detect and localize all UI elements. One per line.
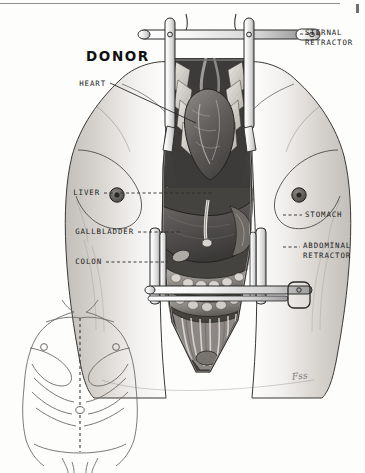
page-title: DONOR	[86, 48, 150, 64]
donor-anatomy-drawing	[0, 0, 365, 473]
label-heart: HEART	[40, 79, 106, 89]
label-gallbladder: GALLBLADDER	[30, 227, 134, 237]
label-liver: LIVER	[40, 188, 100, 198]
nipple-left	[110, 188, 124, 202]
label-colon: COLON	[40, 257, 102, 267]
label-stomach: STOMACH	[305, 210, 342, 220]
abdominal-contents	[158, 186, 258, 376]
illustration-plate: DONOR STERNAL RETRACTOR HEART LIVER GALL…	[0, 0, 365, 473]
label-sternal-retractor: STERNAL RETRACTOR	[305, 28, 353, 47]
label-abdominal-retractor: ABDOMINAL RETRACTOR	[303, 241, 351, 260]
artist-signature: Fss	[292, 370, 308, 382]
nipple-right	[292, 188, 306, 202]
